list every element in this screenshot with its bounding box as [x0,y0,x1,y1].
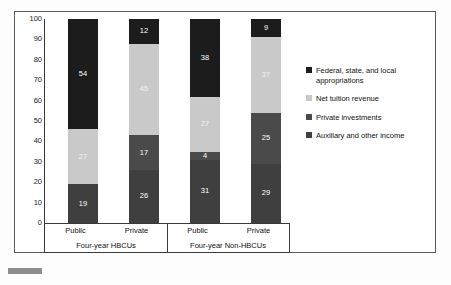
bar-segment: 9 [251,19,281,37]
legend: Federal, state, and local appropriations… [306,66,438,150]
y-axis-tick-80: 80 [16,56,42,64]
legend-item-3[interactable]: Auxillary and other income [306,131,438,141]
bar-value-label: 19 [79,200,87,208]
bar-segment: 27 [190,97,220,152]
category-label-0: Public [45,223,106,238]
bar-segment: 4 [190,152,220,160]
legend-label: Auxillary and other income [316,131,404,141]
category-label-3: Private [228,223,289,238]
y-axis-tick-labels: 1009080706050403020100 [12,0,42,242]
bar-value-label: 45 [140,85,148,93]
category-label-2: Public [167,223,228,238]
legend-swatch-icon [306,114,312,120]
bar-series-area: 1927542617451231427382925379 [44,19,290,223]
bar-segment: 17 [129,135,159,170]
legend-label: Federal, state, and local appropriations [316,66,438,85]
bar-segment: 12 [129,19,159,43]
bar-segment: 31 [190,160,220,223]
bar-value-label: 12 [140,27,148,35]
y-axis-tick-20: 20 [16,178,42,186]
bar-segment: 25 [251,113,281,164]
legend-swatch-icon [306,67,312,73]
legend-item-1[interactable]: Net tuition revenue [306,94,438,104]
bar-segment: 54 [68,19,98,129]
bar-2: 3142738 [190,19,220,223]
bar-0: 192754 [68,19,98,223]
y-axis-tick-40: 40 [16,137,42,145]
y-axis-tick-70: 70 [16,76,42,84]
y-axis-tick-50: 50 [16,117,42,125]
legend-label: Net tuition revenue [316,94,379,104]
category-axis: PublicPrivatePublicPrivate Four-year HBC… [44,223,290,253]
bar-value-label: 27 [201,120,209,128]
bar-value-label: 37 [262,71,270,79]
bar-value-label: 31 [201,187,209,195]
bar-segment: 27 [68,129,98,184]
y-axis-tick-100: 100 [16,15,42,23]
legend-label: Private investments [316,113,381,123]
category-subgroup-row: PublicPrivatePublicPrivate [45,223,289,238]
bar-segment: 29 [251,164,281,223]
legend-swatch-icon [306,132,312,138]
bar-segment: 19 [68,184,98,223]
bar-segment: 45 [129,44,159,136]
scan-artifact [8,268,42,274]
bar-segment: 37 [251,37,281,112]
y-axis-tick-0: 0 [16,219,42,227]
bar-1: 26174512 [129,19,159,223]
category-label-1: Private [106,223,167,238]
category-group-label-0: Four-year HBCUs [45,238,167,253]
y-axis-tick-30: 30 [16,158,42,166]
bar-value-label: 26 [140,192,148,200]
bar-segment: 38 [190,19,220,97]
bar-value-label: 54 [79,70,87,78]
legend-item-2[interactable]: Private investments [306,113,438,123]
bar-value-label: 9 [264,24,268,32]
legend-item-0[interactable]: Federal, state, and local appropriations [306,66,438,85]
figure: 1009080706050403020100 19275426174512314… [0,0,451,285]
bar-value-label: 17 [140,149,148,157]
bar-value-label: 27 [79,153,87,161]
bar-segment: 26 [129,170,159,223]
y-axis-tick-10: 10 [16,199,42,207]
y-axis-tick-90: 90 [16,35,42,43]
category-group-row: Four-year HBCUsFour-year Non-HBCUs [45,238,289,253]
bar-3: 2925379 [251,19,281,223]
bar-value-label: 25 [262,134,270,142]
category-group-label-1: Four-year Non-HBCUs [167,238,289,253]
bar-value-label: 29 [262,189,270,197]
bar-value-label: 4 [203,152,207,160]
legend-swatch-icon [306,95,312,101]
y-axis-tick-60: 60 [16,97,42,105]
bar-value-label: 38 [201,54,209,62]
